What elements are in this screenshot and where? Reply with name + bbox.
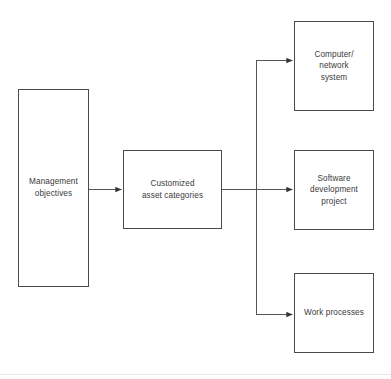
node-work-processes: Work processes xyxy=(294,273,374,353)
node-computer-network-system: Computer/ network system xyxy=(294,21,374,111)
node-software-development-project: Software development project xyxy=(294,150,374,230)
page-edge-artifact xyxy=(0,374,391,375)
node-management-objectives: Management objectives xyxy=(18,89,89,287)
node-customized-asset-categories: Customized asset categories xyxy=(123,150,222,229)
node-label: Work processes xyxy=(303,307,365,319)
node-label: Management objectives xyxy=(26,176,81,199)
node-label: Computer/ network system xyxy=(311,49,356,84)
node-label: Customized asset categories xyxy=(139,178,206,201)
node-label: Software development project xyxy=(307,173,361,208)
flow-diagram: Management objectives Customized asset c… xyxy=(0,0,391,379)
